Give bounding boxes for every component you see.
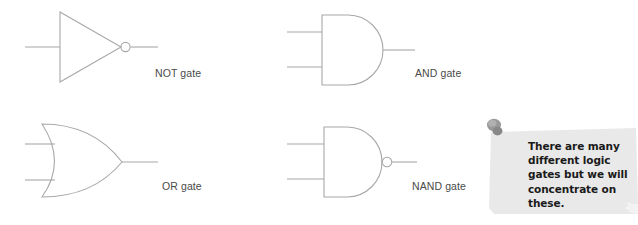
and-gate-symbol [285,8,435,93]
or-gate-label: OR gate [162,180,202,192]
sticky-note: There are many different logic gates but… [488,126,638,214]
not-gate-symbol [25,8,165,88]
or-gate-body [42,124,122,197]
nand-gate-label: NAND gate [412,180,466,192]
sticky-note-text: There are many different logic gates but… [528,139,636,210]
not-gate-inversion-bubble [121,42,130,51]
and-gate-label: AND gate [415,67,461,79]
and-gate-body [322,15,383,85]
or-gate-symbol [25,118,165,203]
pushpin-shadow [493,127,503,136]
pushpin-icon [483,116,509,142]
logic-gates-diagram: NOT gate AND gate OR gate NAND gate [0,0,638,225]
nand-gate-inversion-bubble [382,157,392,167]
pushpin-highlight [488,120,496,127]
not-gate-triangle [60,12,121,82]
not-gate-label: NOT gate [155,67,201,79]
nand-gate-body [324,127,382,197]
